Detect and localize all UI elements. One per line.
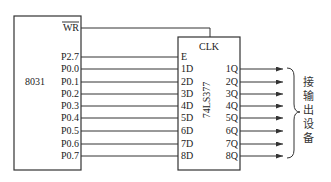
pin-p2-7: P2.7 xyxy=(61,51,79,62)
pin-p0-3: P0.3 xyxy=(61,100,79,111)
input-6d: 6D xyxy=(181,125,193,136)
input-1d: 1D xyxy=(181,63,193,74)
pin-p0-1: P0.1 xyxy=(61,76,79,87)
output-7q: 7Q xyxy=(226,138,239,149)
output-device-label: 接 输 出 设 备 xyxy=(303,76,314,145)
input-8d: 8D xyxy=(181,150,193,161)
pin-p0-0: P0.0 xyxy=(61,63,79,74)
output-arrows xyxy=(240,69,283,156)
pin-p0-2: P0.2 xyxy=(61,88,79,99)
svg-text:输: 输 xyxy=(303,89,314,103)
wr-to-clk-wire xyxy=(81,28,210,37)
input-e: E xyxy=(181,51,187,62)
svg-text:接: 接 xyxy=(303,76,314,89)
circuit-diagram: 8031 WR P2.7 P0.0 P0.1 P0.2 P0.3 P0.4 P0… xyxy=(0,0,331,182)
output-3q: 3Q xyxy=(226,88,239,99)
pin-wr: WR xyxy=(63,22,79,33)
input-3d: 3D xyxy=(181,88,193,99)
output-5q: 5Q xyxy=(226,112,239,123)
right-brace-icon xyxy=(287,68,300,158)
input-7d: 7D xyxy=(181,138,193,149)
pin-p0-4: P0.4 xyxy=(61,112,79,123)
svg-text:备: 备 xyxy=(303,131,314,145)
pin-p0-5: P0.5 xyxy=(61,125,79,136)
input-4d: 4D xyxy=(181,100,193,111)
input-5d: 5D xyxy=(181,112,193,123)
pin-p0-7: P0.7 xyxy=(61,150,79,161)
svg-text:设: 设 xyxy=(303,118,314,131)
output-2q: 2Q xyxy=(226,76,239,87)
pin-p0-6: P0.6 xyxy=(61,138,79,149)
data-bus-wires xyxy=(81,57,178,156)
output-1q: 1Q xyxy=(226,63,239,74)
output-8q: 8Q xyxy=(226,150,239,161)
mcu-name: 8031 xyxy=(25,76,45,87)
clk-label: CLK xyxy=(199,41,220,52)
latch-name: 74LS377 xyxy=(201,82,212,119)
output-4q: 4Q xyxy=(226,100,239,111)
svg-text:出: 出 xyxy=(303,103,314,117)
input-2d: 2D xyxy=(181,76,193,87)
output-6q: 6Q xyxy=(226,125,239,136)
